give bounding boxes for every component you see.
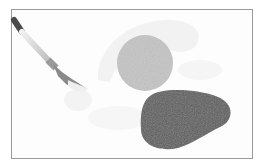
paintbrush-icon	[14, 20, 88, 91]
light-wash-left	[64, 89, 92, 111]
watercolor-illustration	[0, 0, 258, 168]
grey-circle	[117, 35, 173, 91]
dark-blob	[141, 90, 231, 149]
light-wash-bottom	[88, 106, 148, 130]
light-wash-right	[178, 60, 222, 80]
